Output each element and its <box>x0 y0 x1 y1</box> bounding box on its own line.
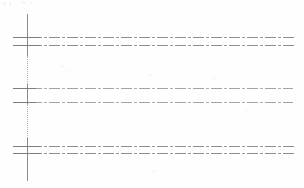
vertical-axis <box>27 104 28 138</box>
scan-speckle <box>68 69 71 71</box>
vertical-axis <box>27 84 28 104</box>
scan-speckle <box>152 170 156 173</box>
scan-speckle <box>246 110 249 112</box>
scan-speckle <box>9 2 11 5</box>
tick-2 <box>13 45 40 46</box>
tick-1 <box>13 37 40 38</box>
scan-speckle <box>22 1 26 4</box>
scan-speckle <box>30 2 33 4</box>
vertical-axis <box>27 138 28 181</box>
gridline-6 <box>13 153 294 154</box>
tick-5 <box>13 146 40 147</box>
scan-speckle <box>213 77 217 79</box>
scan-speckle <box>148 74 153 76</box>
gridline-2 <box>13 45 294 46</box>
gridline-5 <box>13 146 296 147</box>
gridline-1 <box>13 37 296 38</box>
scan-speckle <box>60 65 64 68</box>
tick-4 <box>13 102 36 103</box>
vertical-axis <box>27 14 28 56</box>
tick-3 <box>13 88 36 89</box>
gridline-3 <box>13 88 293 89</box>
scan-speckle <box>3 2 6 5</box>
tick-6 <box>13 153 40 154</box>
diagram-canvas <box>0 0 304 188</box>
vertical-axis <box>27 56 28 84</box>
gridline-4 <box>13 102 293 103</box>
